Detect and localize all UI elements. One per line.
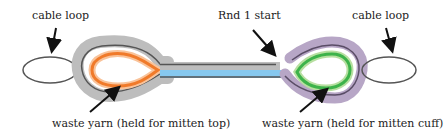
arrow-cable-loop-left-icon: [52, 28, 56, 50]
label-rnd1-start: Rnd 1 start: [218, 10, 281, 21]
arrow-cable-loop-right-icon: [386, 28, 392, 50]
arrow-rnd1-start-icon: [253, 30, 274, 54]
connector-gray: [160, 62, 280, 70]
magic-loop-diagram: cable loop Rnd 1 start cable loop waste …: [0, 0, 448, 140]
cable-loop-left-shape: [23, 57, 77, 83]
cable-loop-right-shape: [362, 57, 416, 83]
label-waste-yarn-top: waste yarn (held for mitten top): [52, 118, 230, 129]
label-cable-loop-right: cable loop: [352, 10, 409, 21]
label-cable-loop-left: cable loop: [32, 10, 89, 21]
label-waste-yarn-cuff: waste yarn (held for mitten cuff): [262, 118, 443, 129]
